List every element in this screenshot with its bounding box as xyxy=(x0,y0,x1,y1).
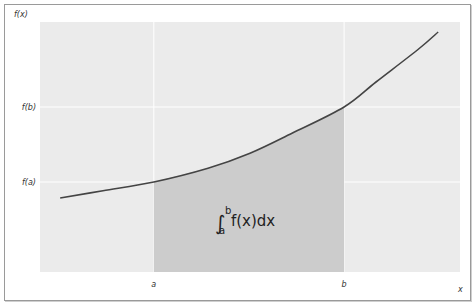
y-tick-label-1: f(b) xyxy=(22,103,36,112)
integral-chart: abf(a)f(b) f(x) x ∫ b a f(x)dx xyxy=(0,0,475,305)
x-tick-label-b: b xyxy=(342,280,347,289)
integrand: f(x)dx xyxy=(231,212,275,230)
y-tick-label-0: f(a) xyxy=(22,178,36,187)
y-axis-label: f(x) xyxy=(14,10,28,19)
x-tick-label-a: a xyxy=(151,280,156,289)
x-axis-label: x xyxy=(457,285,463,294)
integral-lower-limit: a xyxy=(219,225,225,236)
